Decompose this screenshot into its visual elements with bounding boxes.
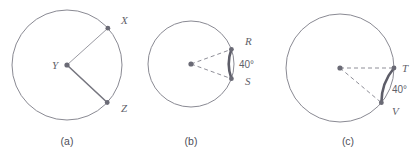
point-label-T: T (402, 62, 409, 74)
center-dot (188, 61, 193, 66)
radius-line-S (191, 64, 231, 79)
point-label-S: S (245, 75, 251, 87)
center-label-Y: Y (52, 59, 60, 71)
panel-caption-2: (c) (342, 135, 354, 147)
point-dot-Z (105, 100, 110, 105)
angle-measure-label: 40° (392, 84, 407, 95)
point-dot-X (105, 26, 110, 31)
circle-panel-a: XZY(a) (12, 10, 129, 147)
radius-line-Z (67, 65, 107, 103)
center-dot (64, 62, 69, 67)
circle-panel-c: TV40°(c) (286, 14, 409, 147)
geometry-figure: XZY(a)RS40°(b)TV40°(c) (0, 0, 420, 162)
point-label-R: R (244, 35, 252, 47)
highlighted-arc (229, 49, 232, 78)
center-dot (337, 65, 342, 70)
point-label-X: X (120, 14, 129, 26)
point-dot-T (392, 66, 397, 71)
angle-measure-label: 40° (239, 59, 254, 70)
radius-line-R (191, 49, 231, 64)
panel-caption-1: (b) (185, 135, 198, 147)
point-dot-S (229, 76, 234, 81)
point-label-Z: Z (121, 102, 128, 114)
point-dot-V (379, 100, 384, 105)
circle-panel-b: RS40°(b) (148, 21, 254, 147)
point-label-V: V (392, 105, 400, 117)
circles-diagram-svg: XZY(a)RS40°(b)TV40°(c) (0, 0, 420, 162)
panel-caption-0: (a) (61, 135, 74, 147)
radius-line-X (67, 28, 108, 65)
point-dot-R (229, 47, 234, 52)
radius-line-V (340, 68, 381, 103)
